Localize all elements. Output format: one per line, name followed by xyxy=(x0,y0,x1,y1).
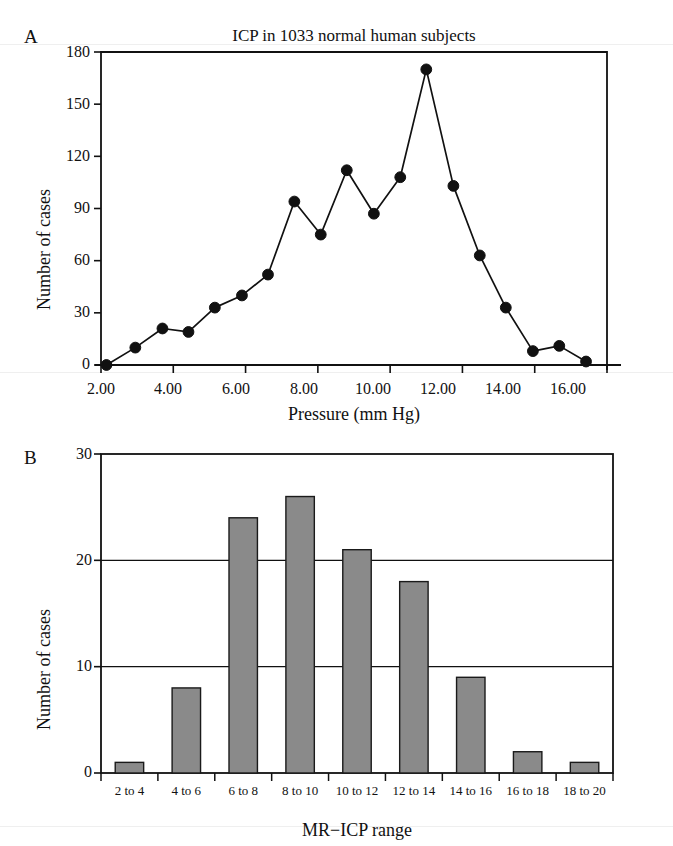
panel-a-data-point xyxy=(289,196,300,207)
panel-b-plot xyxy=(0,425,673,846)
panel-a-plot xyxy=(0,0,673,425)
panel-a-data-point xyxy=(368,208,379,219)
panel-b-bar xyxy=(400,582,428,773)
panel-b-bar xyxy=(513,752,541,773)
panel-a-data-point xyxy=(237,290,248,301)
panel-b-bar xyxy=(570,762,598,773)
panel-b-bar xyxy=(229,518,257,773)
panel-b-bar xyxy=(115,762,143,773)
panel-b-bar xyxy=(286,497,314,773)
panel-a-data-point xyxy=(474,250,485,261)
panel-a-data-point xyxy=(101,360,112,371)
figure-root: A ICP in 1033 normal human subjects Numb… xyxy=(0,0,673,846)
panel-a-data-point xyxy=(554,340,565,351)
panel-a-data-point xyxy=(341,165,352,176)
panel-a-data-point xyxy=(263,269,274,280)
panel-a-data-line xyxy=(106,69,586,365)
panel-b-bar xyxy=(172,688,200,773)
panel-a-data-point xyxy=(528,346,539,357)
panel-a-data-point xyxy=(448,180,459,191)
panel-a-data-point xyxy=(130,342,141,353)
panel-a-data-point xyxy=(581,356,592,367)
panel-b: B Number of cases 30 20 10 0 2 to 44 to … xyxy=(0,425,673,846)
panel-b-bar xyxy=(457,677,485,773)
panel-a-data-point xyxy=(183,327,194,338)
panel-a-data-point xyxy=(395,172,406,183)
panel-a-data-point xyxy=(500,302,511,313)
panel-a-data-point xyxy=(315,229,326,240)
panel-b-bar xyxy=(343,550,371,773)
panel-a-data-point xyxy=(157,323,168,334)
panel-a-axis-frame xyxy=(101,52,607,370)
panel-a-data-point xyxy=(421,64,432,75)
panel-a: A ICP in 1033 normal human subjects Numb… xyxy=(0,0,673,425)
panel-a-data-point xyxy=(209,302,220,313)
